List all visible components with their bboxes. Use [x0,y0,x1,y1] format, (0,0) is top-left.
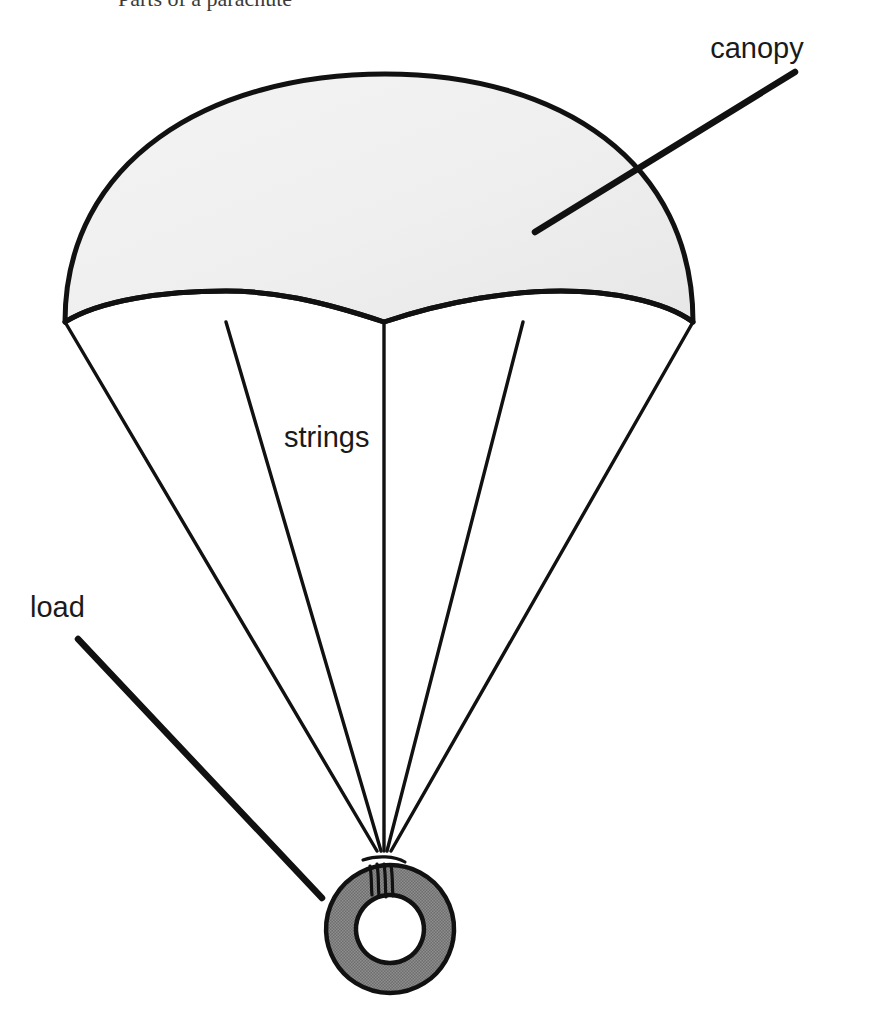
string-wrap-1 [370,866,372,895]
clipped-header-text: Parts of a parachute [118,0,292,11]
string-wrap-4 [391,865,393,896]
clipped-header-label: Parts of a parachute [118,0,292,11]
string-wrap-3 [384,864,386,897]
string-wrap-2 [377,864,379,896]
parachute-diagram: Parts of a parachute canopy strings load [0,0,886,1015]
strings-label: strings [284,421,369,453]
load-label: load [30,591,85,623]
canopy-label: canopy [710,32,804,64]
